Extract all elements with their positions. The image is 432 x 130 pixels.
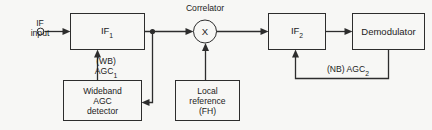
block-local-reference-label: Local reference (FH) [177, 85, 239, 115]
arrowhead-local-reference-to-correlator [202, 43, 209, 51]
arrowhead-nb-agc-to-if2 [292, 50, 299, 58]
correlator-title-label: Correlator [186, 3, 224, 13]
block-diagram-canvas: IF input IF1 (WB) AGC1 Wideband AGC dete… [0, 0, 432, 130]
wb-agc-label: (WB) AGC1 [85, 56, 127, 79]
block-if2-label-subscript: 2 [299, 32, 303, 39]
if-input-label-line1: IF [22, 18, 58, 28]
arrowhead-correlator-to-if2 [261, 28, 269, 35]
if-input-label: IF input [22, 18, 58, 38]
arrowhead-if1-to-correlator [186, 28, 194, 35]
if-input-label-line2: input [22, 28, 58, 38]
wb-agc-label-line2: AGC1 [85, 66, 127, 79]
block-if1-label-subscript: 1 [109, 32, 113, 39]
correlator-symbol-label: X [202, 26, 208, 37]
local-reference-label-line3: (FH) [177, 106, 239, 116]
arrowhead-to-agc-detector [142, 99, 150, 106]
block-wideband-agc-detector-label: Wideband AGC detector [65, 85, 141, 115]
nb-agc-label: (NB) AGC2 [327, 64, 369, 77]
block-demodulator-label: Demodulator [361, 26, 415, 37]
wire-if1-tap-to-agc-detector [148, 32, 153, 103]
wideband-agc-detector-label-line1: Wideband [65, 85, 141, 95]
wideband-agc-detector-label-line2: AGC [65, 95, 141, 105]
nb-agc-label-subscript: 2 [365, 70, 369, 77]
wb-agc-label-subscript: 1 [113, 72, 117, 79]
wb-agc-label-line2-text: AGC [95, 66, 114, 76]
local-reference-label-line1: Local [177, 85, 239, 95]
nb-agc-label-text: (NB) AGC [327, 64, 365, 74]
local-reference-label-line2: reference [177, 95, 239, 105]
wideband-agc-detector-label-line3: detector [65, 106, 141, 116]
block-if1-label: IF1 [101, 25, 113, 39]
wb-agc-label-line1: (WB) [85, 56, 127, 66]
arrowhead-input-to-if1 [63, 28, 71, 35]
block-if2-label: IF2 [291, 25, 303, 39]
arrowhead-if2-to-demodulator [345, 28, 353, 35]
